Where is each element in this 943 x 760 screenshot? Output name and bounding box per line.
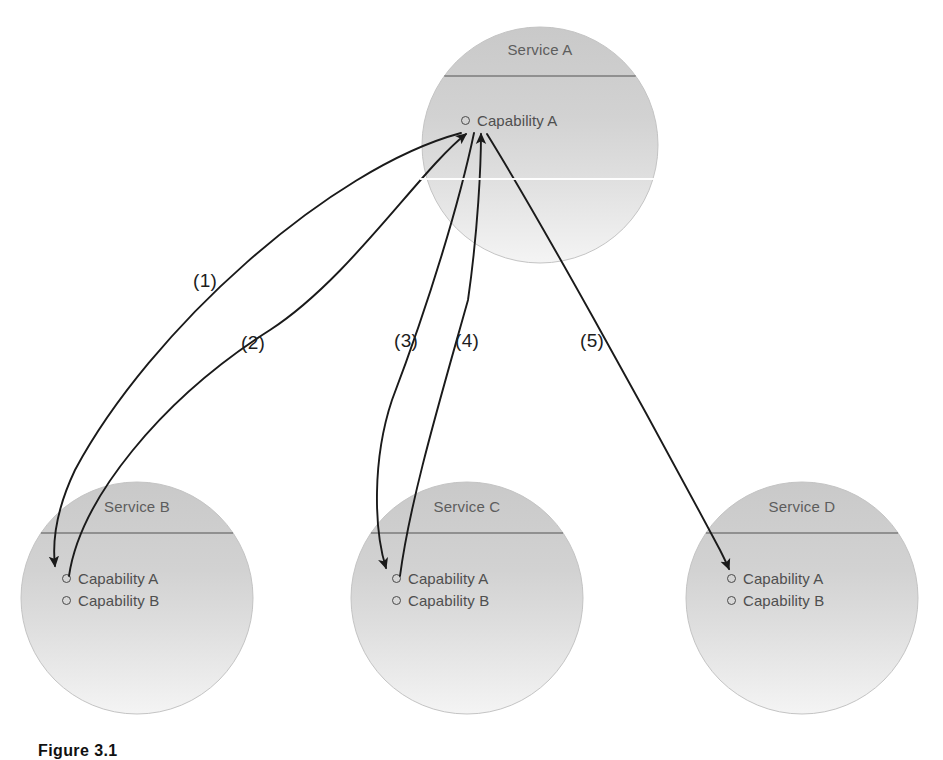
edge-2-label: (2) <box>241 332 265 354</box>
edge-5-path[interactable] <box>487 134 729 569</box>
edge-3-label: (3) <box>394 330 418 352</box>
scan-artifact-line <box>420 178 660 180</box>
edge-1-label: (1) <box>193 270 217 292</box>
edge-5-label: (5) <box>580 330 604 352</box>
edge-4-label: (4) <box>455 330 479 352</box>
edge-2-path[interactable] <box>69 134 466 576</box>
figure-caption: Figure 3.1 <box>38 742 118 760</box>
edge-4-path[interactable] <box>400 134 481 576</box>
